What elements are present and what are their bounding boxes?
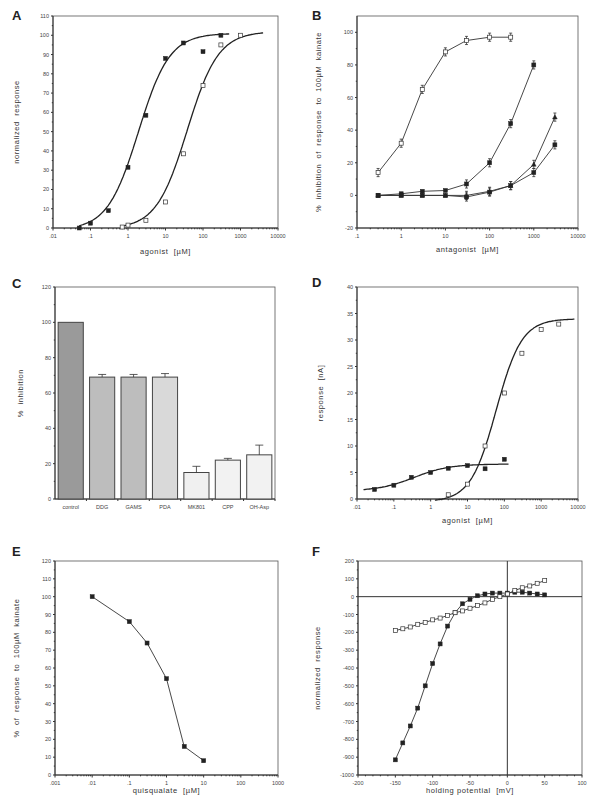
panel-d-x-tick-label: 10: [464, 504, 470, 510]
panel-label-d: D: [312, 275, 321, 290]
panel-f-y-tick-label: -800: [343, 736, 354, 742]
data-point: [483, 592, 487, 596]
panel-b-x-tick-label: 100: [485, 233, 494, 239]
data-point: [509, 122, 513, 126]
data-point: [420, 87, 424, 91]
panel-f-y-tick-label: -500: [343, 683, 354, 689]
data-point: [126, 223, 130, 227]
data-point: [464, 38, 468, 42]
panel-f-y-tick-label: -900: [343, 754, 354, 760]
panel-a-y-tick-label: 70: [43, 90, 49, 96]
panel-a-x-tick-label: 100: [198, 233, 207, 239]
data-point: [553, 143, 557, 147]
data-point: [144, 218, 148, 222]
bar-mk801: [184, 473, 209, 500]
data-point: [483, 601, 487, 605]
panel-f-y-tick-label: -1000: [340, 772, 354, 778]
panel-d-chart: 0510152025303540.01.1110100100010000agon…: [316, 284, 586, 525]
data-point: [468, 597, 472, 601]
data-point: [373, 487, 377, 491]
data-point: [443, 50, 447, 54]
data-point: [535, 592, 539, 596]
panel-b-x-tick-label: 1: [400, 233, 403, 239]
data-point: [532, 171, 536, 175]
panel-a-x-tick-label: .01: [49, 233, 57, 239]
data-point: [505, 592, 509, 596]
panel-a-y-tick-label: 100: [40, 32, 49, 38]
bar-gams: [121, 377, 146, 499]
data-point: [219, 43, 223, 47]
panel-c-y-tick-label: 80: [45, 355, 51, 361]
data-point: [409, 475, 413, 479]
panel-d-y-tick-label: 5: [350, 470, 353, 476]
panel-a-y-tick-label: 80: [43, 71, 49, 77]
data-point: [376, 193, 380, 197]
data-point: [543, 593, 547, 597]
data-point: [438, 616, 442, 620]
data-point: [164, 200, 168, 204]
data-point: [165, 677, 169, 681]
panel-c-category-label: MK801: [188, 504, 205, 510]
panel-e-chart: 0102030405060708090100110120.001.01.1110…: [12, 558, 284, 795]
data-point: [431, 618, 435, 622]
panel-label-b: B: [312, 8, 321, 23]
data-point: [393, 629, 397, 633]
panel-f-y-tick-label: -400: [343, 665, 354, 671]
panel-f-x-tick-label: 50: [542, 780, 548, 786]
data-point: [483, 467, 487, 471]
panel-e-y-tick-label: 20: [45, 736, 51, 742]
panel-b-x-tick-label: 10: [442, 233, 448, 239]
panel-f-plot-frame: [358, 561, 582, 775]
data-point: [393, 758, 397, 762]
panel-d-y-tick-label: 15: [347, 417, 353, 423]
figure-canvas: A B C D E F 0102030405060708090100110.01…: [0, 0, 600, 800]
panel-label-f: F: [312, 544, 320, 559]
panel-e-y-tick-label: 90: [45, 612, 51, 618]
bar-control: [58, 322, 83, 499]
data-point: [528, 584, 532, 588]
panel-c-category-label: control: [62, 504, 79, 510]
panel-e-x-axis-label: quisqualate [µM]: [133, 786, 200, 795]
data-point: [423, 621, 427, 625]
panel-d-y-axis-label: response [nA]: [316, 365, 325, 422]
data-point: [461, 602, 465, 606]
panel-c-y-tick-label: 20: [45, 461, 51, 467]
panel-a-y-tick-label: 90: [43, 52, 49, 58]
panel-c-chart: 020406080100120controlDDGGAMSPDAMK801CPP…: [16, 284, 275, 510]
data-point: [553, 115, 558, 119]
panel-e-x-tick-label: 1000: [272, 780, 284, 786]
panel-c-category-label: DDG: [96, 504, 108, 510]
panel-d-y-tick-label: 20: [347, 390, 353, 396]
data-point: [144, 113, 148, 117]
data-point: [181, 41, 185, 45]
panel-f-x-tick-label: -150: [390, 780, 401, 786]
panel-a-y-tick-label: 0: [46, 225, 49, 231]
data-point: [376, 171, 380, 175]
panel-f-y-tick-label: 200: [345, 558, 354, 564]
data-point: [127, 620, 131, 624]
data-point: [202, 759, 206, 763]
panel-d-x-tick-label: .01: [353, 504, 361, 510]
panel-d-y-tick-label: 10: [347, 443, 353, 449]
panel-a-x-tick-label: .1: [88, 233, 93, 239]
bar-oh-asp: [247, 455, 272, 499]
data-point: [490, 597, 494, 601]
panel-b-y-tick-label: -20: [345, 225, 353, 231]
panel-b-chart: -20020406080100.1110100100010000antagoni…: [314, 16, 586, 254]
data-point: [408, 724, 412, 728]
data-point: [408, 625, 412, 629]
panel-e-y-tick-label: 60: [45, 665, 51, 671]
panel-a-y-axis-label: normalized response: [12, 80, 21, 164]
data-point: [219, 33, 223, 37]
data-point: [488, 161, 492, 165]
panel-b-y-axis-label: % inhibition of response to 100µM kainat…: [314, 32, 323, 212]
panel-label-c: C: [12, 276, 22, 291]
panel-a-y-tick-label: 30: [43, 167, 49, 173]
data-point: [461, 609, 465, 613]
data-point: [557, 322, 561, 326]
data-point: [77, 226, 81, 230]
data-point: [446, 613, 450, 617]
fitted-curve: [79, 34, 229, 226]
panel-e-y-tick-label: 50: [45, 683, 51, 689]
panel-f-x-tick-label: 100: [577, 780, 586, 786]
